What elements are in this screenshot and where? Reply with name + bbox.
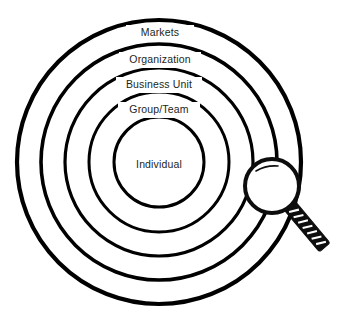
ring-label-business-unit: Business Unit xyxy=(126,78,192,90)
ring-label-group-team: Group/Team xyxy=(129,103,188,115)
ring-label-individual: Individual xyxy=(136,158,182,170)
ring-label-organization: Organization xyxy=(129,53,190,65)
ring-label-markets: Markets xyxy=(141,26,179,38)
magnifier-lens[interactable] xyxy=(245,159,299,213)
concentric-levels-diagram: Markets Organization Business Unit Group… xyxy=(0,0,351,320)
magnifying-glass-icon[interactable] xyxy=(245,159,330,252)
diagram-canvas: Markets Organization Business Unit Group… xyxy=(0,0,351,320)
